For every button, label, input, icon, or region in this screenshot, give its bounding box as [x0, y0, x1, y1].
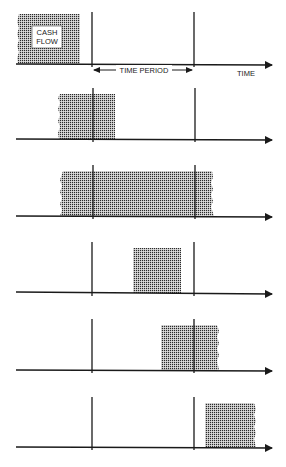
- time-axis: [16, 139, 272, 140]
- time-axis: [16, 370, 272, 371]
- panel-3-spans-period: [16, 165, 272, 219]
- panel-6-after-period: [16, 397, 272, 450]
- cash-flow-block: [205, 403, 256, 447]
- cash-flow-timing-diagram: CASH FLOW TIME PERIOD TIME: [0, 0, 286, 467]
- cash-flow-label-line2: FLOW: [36, 37, 59, 46]
- cash-flow-block: [161, 325, 219, 370]
- panel-4-within-period: [16, 242, 272, 296]
- time-axis: [16, 216, 272, 217]
- cash-flow-block: [58, 94, 115, 139]
- cash-flow-block: [60, 171, 214, 216]
- time-axis: [16, 64, 272, 65]
- panel-5-overlaps-end: [16, 319, 272, 373]
- time-period-label: TIME PERIOD: [120, 66, 169, 75]
- panel-2-overlaps-start: [16, 88, 272, 142]
- panel-1-before-period: CASH FLOW TIME PERIOD TIME: [16, 12, 272, 78]
- time-axis: [16, 447, 272, 448]
- cash-flow-label-line1: CASH: [37, 28, 58, 37]
- time-axis-label: TIME: [237, 69, 255, 78]
- cash-flow-block: [133, 248, 181, 293]
